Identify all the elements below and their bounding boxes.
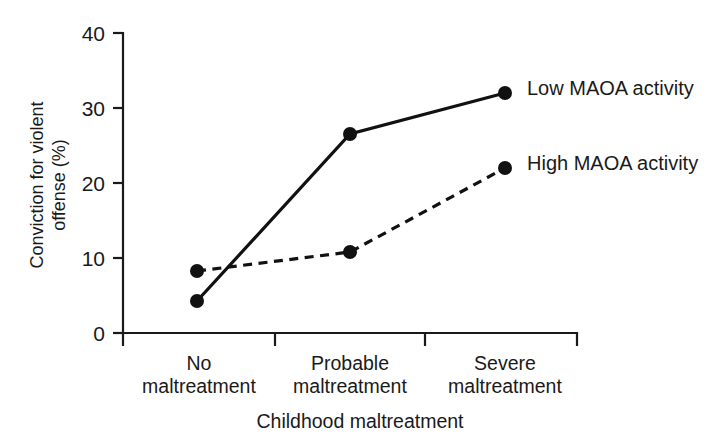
y-tick-label-40: 40: [82, 22, 105, 45]
x-category-label-3-line2: maltreatment: [448, 375, 562, 397]
y-tick-label-30: 30: [82, 97, 105, 120]
x-category-label-3-line1: Severe: [474, 352, 536, 374]
y-tick-label-20: 20: [82, 172, 105, 195]
x-category-label-2-line2: maltreatment: [293, 375, 407, 397]
data-point-low-maoa-1: [190, 294, 204, 308]
x-category-label-1-line1: No: [187, 352, 212, 374]
y-tick-label-0: 0: [93, 322, 105, 345]
x-axis-title: Childhood maltreatment: [256, 410, 464, 432]
data-point-low-maoa-3: [498, 86, 512, 100]
y-tick-label-10: 10: [82, 247, 105, 270]
data-point-high-maoa-3: [498, 161, 512, 175]
series-label-high-maoa: High MAOA activity: [527, 152, 698, 174]
series-label-low-maoa: Low MAOA activity: [527, 77, 694, 99]
data-point-low-maoa-2: [343, 127, 357, 141]
data-point-high-maoa-1: [190, 264, 204, 278]
line-chart: 40 30 20 10 0 No maltreatment Probable m…: [0, 0, 722, 446]
x-category-label-1-line2: maltreatment: [142, 375, 256, 397]
data-point-high-maoa-2: [343, 245, 357, 259]
y-axis-title-line2: offense (%): [49, 139, 69, 231]
chart-figure: 40 30 20 10 0 No maltreatment Probable m…: [0, 0, 722, 446]
series-line-low-maoa: [197, 93, 505, 301]
x-category-label-2-line1: Probable: [311, 352, 389, 374]
y-axis-title-line1: Conviction for violent: [27, 101, 47, 268]
